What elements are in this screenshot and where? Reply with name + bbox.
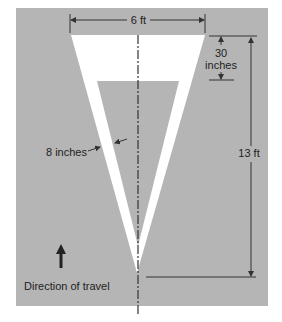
top-band-unit: inches [205,59,237,71]
direction-label: Direction of travel [24,280,110,292]
top-band-value: 30 [215,47,227,59]
width-label: 6 ft [131,14,146,26]
stroke-width-label: 8 inches [46,146,87,158]
yield-marking-diagram: 6 ft 30 inches 13 ft 8 inches Direction … [0,0,282,322]
height-label: 13 ft [238,147,259,159]
